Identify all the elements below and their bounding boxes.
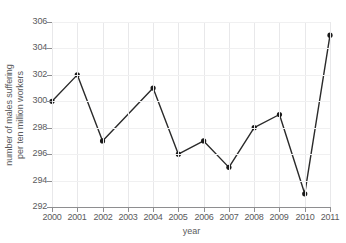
y-axis-tick: [47, 207, 52, 208]
gridline-vertical: [178, 22, 179, 207]
y-axis-tick-label: 302: [7, 69, 47, 79]
gridline-vertical: [330, 22, 331, 207]
y-axis-tick: [47, 48, 52, 49]
gridline-horizontal: [52, 154, 330, 155]
series-polyline: [52, 35, 330, 194]
gridline-vertical: [52, 22, 53, 207]
y-axis-tick: [47, 181, 52, 182]
gridline-horizontal: [52, 181, 330, 182]
data-series-line: [52, 22, 330, 207]
y-axis-tick-label: 292: [7, 201, 47, 211]
gridline-vertical: [128, 22, 129, 207]
gridline-horizontal: [52, 101, 330, 102]
gridline-vertical: [229, 22, 230, 207]
y-axis-tick: [47, 101, 52, 102]
gridline-vertical: [279, 22, 280, 207]
plot-area: [52, 22, 330, 207]
gridline-vertical: [153, 22, 154, 207]
y-axis-tick-label: 294: [7, 175, 47, 185]
gridline-horizontal: [52, 128, 330, 129]
x-axis-title: year: [52, 226, 331, 236]
line-chart: number of males suffering per ten millio…: [0, 0, 346, 243]
gridline-horizontal: [52, 48, 330, 49]
y-axis-tick-label: 296: [7, 148, 47, 158]
x-axis-tick-label: 2011: [313, 212, 346, 222]
gridline-vertical: [103, 22, 104, 207]
gridline-vertical: [204, 22, 205, 207]
gridline-vertical: [305, 22, 306, 207]
y-axis-tick-label: 298: [7, 122, 47, 132]
y-axis-tick-label: 300: [7, 95, 47, 105]
gridline-horizontal: [52, 75, 330, 76]
gridline-horizontal: [52, 22, 330, 23]
y-axis-tick: [47, 75, 52, 76]
y-axis-tick-label: 306: [7, 16, 47, 26]
y-axis-tick: [47, 154, 52, 155]
gridline-vertical: [77, 22, 78, 207]
gridline-vertical: [254, 22, 255, 207]
x-axis-line: [52, 207, 331, 208]
y-axis-tick-label: 304: [7, 42, 47, 52]
y-axis-tick: [47, 22, 52, 23]
y-axis-tick: [47, 128, 52, 129]
